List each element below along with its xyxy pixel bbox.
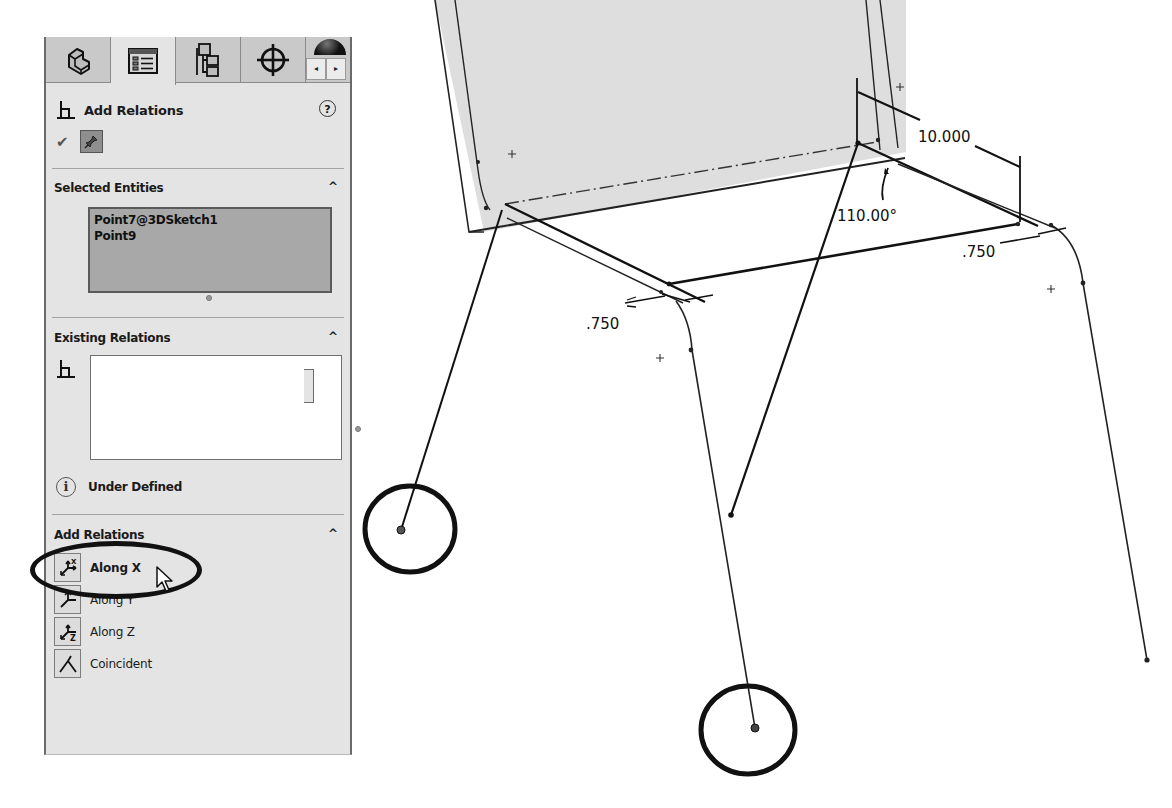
property-manager-header: Add Relations ? (56, 100, 346, 120)
property-manager-tab[interactable] (111, 37, 176, 85)
status-text: Under Defined (88, 480, 182, 494)
dimension-length[interactable]: 10.000 (918, 128, 971, 146)
confirm-row: ✔ (56, 130, 103, 153)
existing-relations-title: Existing Relations (54, 331, 170, 345)
help-button[interactable]: ? (319, 100, 336, 117)
configuration-manager-tab[interactable] (176, 37, 241, 83)
tab-scroll-right-button[interactable]: ▸ (326, 58, 346, 80)
coincident-icon (54, 649, 81, 678)
list-item[interactable]: Point7@3DSketch1 (94, 212, 326, 228)
tab-scroll-left-button[interactable]: ◂ (306, 58, 326, 80)
add-relations-title: Add Relations (54, 528, 144, 542)
relation-along-z[interactable]: Z Along Z (54, 616, 294, 647)
keep-visible-pin-button[interactable] (80, 130, 103, 153)
selected-entities-list[interactable]: Point7@3DSketch1 Point9 (88, 207, 332, 293)
display-manager-tab[interactable]: ◂ ▸ (306, 37, 350, 83)
relation-icon (56, 359, 76, 379)
tab-scroll-buttons: ◂ ▸ (306, 58, 346, 80)
configuration-tree-icon (193, 42, 223, 78)
annotation-circle-point9 (701, 686, 795, 774)
panel-resize-grip[interactable] (304, 369, 314, 403)
svg-text:Z: Z (70, 634, 76, 643)
relation-label: Coincident (90, 657, 152, 671)
pushpin-icon (84, 134, 99, 149)
appearance-dome-icon (314, 39, 346, 55)
crosshair-icon (255, 42, 291, 78)
selected-entities-title: Selected Entities (54, 181, 163, 195)
selected-entities-collapse-button[interactable]: ^ (328, 180, 338, 194)
graphics-area[interactable]: 10.000 110.00° .750 .750 (360, 0, 1172, 808)
dimension-angle[interactable]: 110.00° (837, 207, 897, 225)
part-icon (61, 43, 95, 77)
sketch-status: i Under Defined (56, 477, 182, 497)
relation-label: Along Z (90, 625, 135, 639)
list-item[interactable]: Point9 (94, 228, 326, 244)
relation-coincident[interactable]: Coincident (54, 648, 294, 679)
divider (52, 317, 344, 318)
along-z-icon: Z (54, 617, 81, 646)
dimension-fillet-left[interactable]: .750 (586, 315, 619, 333)
property-manager-title: Add Relations (84, 103, 183, 118)
dimension-fillet-right[interactable]: .750 (962, 243, 995, 261)
ok-button[interactable]: ✔ (56, 133, 74, 151)
existing-relations-collapse-button[interactable]: ^ (328, 330, 338, 344)
feature-manager-tab[interactable] (46, 37, 111, 83)
divider (52, 514, 344, 515)
info-icon: i (56, 477, 76, 497)
dimxpert-manager-tab[interactable] (241, 37, 306, 83)
add-relations-collapse-button[interactable]: ^ (328, 527, 338, 541)
manager-tabs: ◂ ▸ (46, 37, 350, 85)
add-relations-icon (56, 100, 76, 120)
property-list-icon (126, 46, 160, 76)
mouse-cursor-icon (155, 565, 177, 595)
list-resize-handle[interactable] (206, 295, 212, 301)
sketch-canvas[interactable]: 10.000 110.00° .750 .750 (360, 0, 1172, 808)
divider (52, 168, 344, 169)
